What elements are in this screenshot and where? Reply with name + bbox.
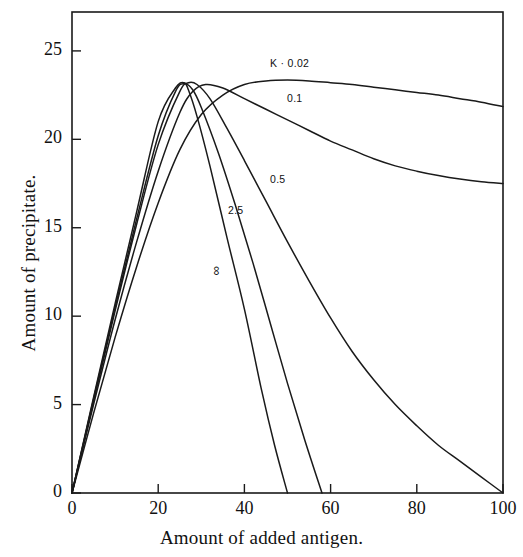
label-k-002: K · 0.02 (270, 57, 309, 69)
x-tick-label-80: 80 (394, 498, 440, 519)
y-axis-title: Amount of precipitate. (18, 113, 40, 413)
label-01: 0.1 (287, 92, 303, 104)
label-05: 0.5 (270, 173, 286, 185)
antigen-precipitate-chart: Amount of added antigen. Amount of preci… (0, 0, 523, 557)
x-tick-label-60: 60 (308, 498, 354, 519)
data-curves (72, 80, 503, 493)
curve-0 (72, 80, 503, 493)
y-tick-label-0: 0 (22, 481, 62, 502)
x-tick-label-20: 20 (135, 498, 181, 519)
y-axis-ticks (72, 51, 81, 493)
y-tick-label-5: 5 (22, 393, 62, 414)
label-infinity: ∞ (208, 266, 223, 276)
x-axis-title: Amount of added antigen. (0, 527, 523, 549)
chart-canvas (0, 0, 523, 557)
x-tick-label-40: 40 (221, 498, 267, 519)
curve-4 (72, 83, 288, 493)
y-tick-label-10: 10 (22, 304, 62, 325)
y-tick-label-20: 20 (22, 127, 62, 148)
x-tick-label-100: 100 (480, 498, 523, 519)
curve-1 (72, 84, 503, 493)
y-tick-label-25: 25 (22, 39, 62, 60)
curve-3 (72, 84, 322, 493)
plot-frame (72, 12, 503, 493)
curve-2 (72, 82, 503, 493)
y-tick-label-15: 15 (22, 216, 62, 237)
label-25: 2.5 (228, 204, 244, 216)
